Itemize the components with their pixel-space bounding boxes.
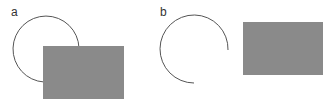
rectangle-b: [243, 22, 323, 75]
figure-canvas: [0, 0, 334, 101]
arc-b: [160, 15, 228, 83]
rectangle-a: [43, 46, 124, 99]
